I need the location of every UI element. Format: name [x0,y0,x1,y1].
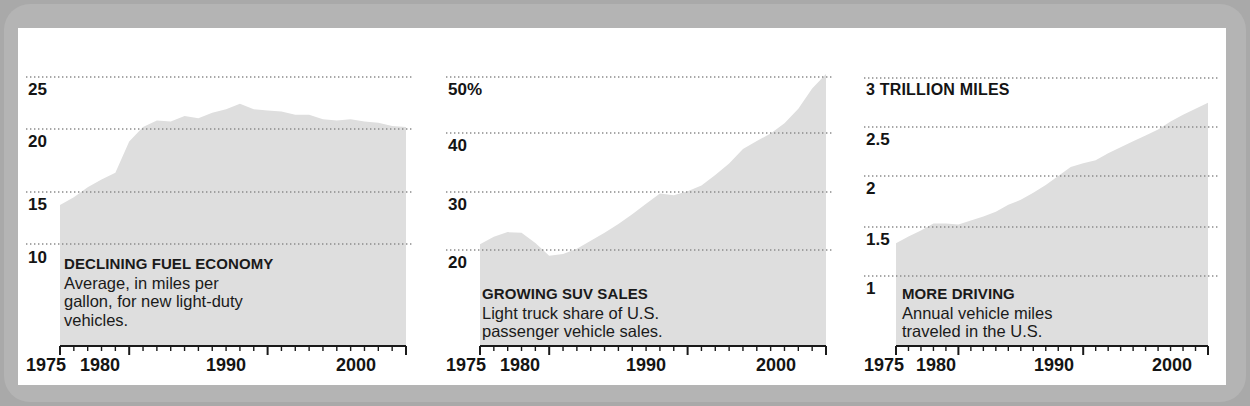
xtick-1-0: 1975 [446,356,486,374]
xtick-0-3: 2000 [336,356,376,374]
caption-body: Average, in miles per gallon, for new li… [64,274,273,329]
caption-line: gallon, for new light-duty [64,292,273,310]
xtick-0-0: 1975 [26,356,66,374]
chart-declining-fuel-economy: 25 20 15 10 DECLINING FUEL ECONOMY Avera… [18,28,422,385]
xtick-2-2: 1990 [1034,356,1074,374]
plot-area-fuel-economy [18,28,422,385]
ytick-0-1: 20 [28,133,47,150]
ytick-1-1: 40 [448,137,467,154]
ytick-0-2: 15 [28,196,47,213]
xtick-1-2: 1990 [626,356,666,374]
chart-growing-suv-sales: 50% 40 30 20 GROWING SUV SALES Light tru… [438,28,842,385]
xtick-1-1: 1980 [500,356,540,374]
caption-line: Annual vehicle miles [902,304,1052,322]
ytick-1-0: 50% [448,81,482,98]
ytick-2-4: 1 [866,280,875,297]
ytick-2-0: 3 TRILLION MILES [866,82,1010,98]
caption-fuel-economy: DECLINING FUEL ECONOMY Average, in miles… [64,256,273,329]
xtick-2-0: 1975 [864,356,904,374]
caption-body: Light truck share of U.S. passenger vehi… [482,304,663,341]
ytick-2-3: 1.5 [866,231,890,248]
caption-line: Average, in miles per [64,274,273,292]
xtick-0-2: 1990 [206,356,246,374]
ytick-2-2: 2 [866,180,875,197]
ytick-2-1: 2.5 [866,131,890,148]
caption-suv-sales: GROWING SUV SALES Light truck share of U… [482,286,663,341]
charts-panel: 25 20 15 10 DECLINING FUEL ECONOMY Avera… [18,28,1226,385]
caption-body: Annual vehicle miles traveled in the U.S… [902,304,1052,341]
caption-line: vehicles. [64,311,273,329]
caption-title: MORE DRIVING [902,286,1052,303]
chart-more-driving: 3 TRILLION MILES 2.5 2 1.5 1 MORE DRIVIN… [856,28,1226,385]
xtick-2-1: 1980 [916,356,956,374]
fuel-economy-svg [18,28,422,385]
caption-line: traveled in the U.S. [902,322,1052,340]
ytick-1-2: 30 [448,196,467,213]
caption-line: passenger vehicle sales. [482,322,663,340]
caption-title: DECLINING FUEL ECONOMY [64,256,273,273]
infographic-figure: 25 20 15 10 DECLINING FUEL ECONOMY Avera… [0,0,1250,406]
caption-more-driving: MORE DRIVING Annual vehicle miles travel… [902,286,1052,341]
ytick-1-3: 20 [448,254,467,271]
xtick-2-3: 2000 [1152,356,1192,374]
xtick-1-3: 2000 [756,356,796,374]
ytick-0-0: 25 [28,81,47,98]
caption-title: GROWING SUV SALES [482,286,663,303]
ytick-0-3: 10 [28,249,47,266]
caption-line: Light truck share of U.S. [482,304,663,322]
xtick-0-1: 1980 [80,356,120,374]
